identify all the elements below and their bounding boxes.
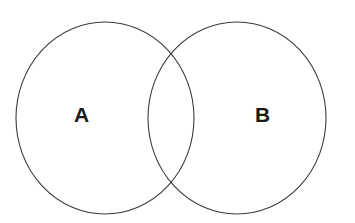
- set-a-label: A: [74, 104, 89, 125]
- venn-diagram-canvas: A B: [0, 0, 355, 223]
- set-a-circle[interactable]: [16, 22, 194, 214]
- set-b-label: B: [255, 104, 270, 125]
- venn-diagram-graphic: [0, 0, 355, 223]
- set-b-circle[interactable]: [148, 22, 326, 214]
